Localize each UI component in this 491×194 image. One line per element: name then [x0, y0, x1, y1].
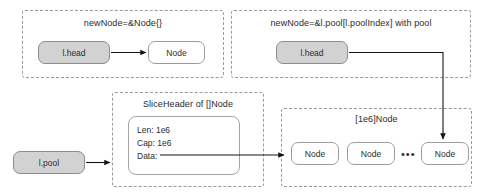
node-l-pool: l.pool: [13, 151, 85, 174]
node-new-node-literal: Node: [148, 41, 205, 64]
slice-field-cap: Cap: 1e6: [137, 138, 172, 148]
array-node-second: Node: [347, 142, 395, 165]
panel-new-node-literal-title: newNode=&Node{}: [22, 18, 224, 28]
array-node-last: Node: [421, 142, 469, 165]
node-l-head-pool: l.head: [276, 41, 348, 64]
panel-node-array-title: [1e6]Node: [281, 114, 472, 124]
array-ellipsis: •••: [401, 149, 416, 160]
slice-field-data: Data:: [137, 151, 157, 161]
panel-new-node-pool-title: newNode=&l.pool[l.poolIndex] with pool: [231, 18, 471, 28]
diagram-canvas: newNode=&Node{} l.head Node newNode=&l.p…: [0, 0, 491, 194]
node-l-head-literal: l.head: [38, 41, 110, 64]
panel-slice-header-title: SliceHeader of []Node: [112, 99, 264, 109]
array-node-first: Node: [291, 142, 339, 165]
slice-field-len: Len: 1e6: [137, 125, 170, 135]
